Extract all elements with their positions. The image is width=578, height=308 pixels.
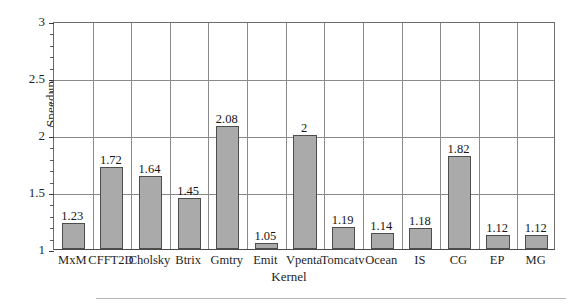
y-axis-minor-tick: [50, 228, 54, 229]
bar-value-label: 2.08: [216, 112, 238, 127]
bar-value-label: 1.12: [525, 221, 547, 236]
x-axis-tick-label: CFFT2D: [88, 253, 133, 268]
x-axis-tick-label: EP: [490, 253, 505, 268]
bar-value-label: 1.23: [61, 209, 83, 224]
bar-value-label: 1.64: [139, 162, 161, 177]
x-axis-tick-label: Cholsky: [129, 253, 171, 268]
bar-value-label: 1.72: [100, 153, 122, 168]
y-axis-major-tick: [49, 251, 54, 252]
bar-value-label: 1.19: [332, 213, 354, 228]
bar: [332, 227, 355, 249]
bar-value-label: 1.12: [486, 221, 508, 236]
plot-area: [53, 22, 555, 250]
bar-chart-figure: Speedup 11.522.53 MxMCFFT2DCholskyBtrixG…: [0, 0, 578, 308]
gridline-vertical: [517, 23, 518, 249]
bar-value-label: 1.82: [448, 142, 470, 157]
gridline-vertical: [93, 23, 94, 249]
y-axis-minor-tick: [50, 240, 54, 241]
gridline-vertical: [170, 23, 171, 249]
bar: [139, 176, 162, 249]
bar: [486, 235, 509, 249]
bar-value-label: 1.05: [254, 229, 276, 244]
y-axis-minor-tick: [50, 148, 54, 149]
y-axis-minor-tick: [50, 205, 54, 206]
bar: [178, 198, 201, 249]
x-axis-tick-label: Emit: [253, 253, 277, 268]
bar: [216, 126, 239, 249]
y-axis-major-tick: [49, 194, 54, 195]
x-axis-title: Kernel: [0, 269, 578, 285]
gridline-vertical: [324, 23, 325, 249]
y-axis-minor-tick: [50, 160, 54, 161]
bar-value-label: 2: [301, 121, 307, 136]
bar: [293, 135, 316, 249]
y-axis-minor-tick: [50, 91, 54, 92]
bar: [62, 223, 85, 249]
x-axis-tick-label: Gmtry: [210, 253, 243, 268]
gridline-vertical: [247, 23, 248, 249]
gridline-vertical: [131, 23, 132, 249]
y-axis-minor-tick: [50, 69, 54, 70]
y-axis-major-tick: [49, 80, 54, 81]
bar: [448, 156, 471, 249]
gridline-vertical: [402, 23, 403, 249]
y-axis-tick-label: 2: [15, 128, 45, 144]
y-axis-minor-tick: [50, 114, 54, 115]
y-axis-minor-tick: [50, 217, 54, 218]
gridline-vertical: [286, 23, 287, 249]
gridline-vertical: [208, 23, 209, 249]
bar-value-label: 1.18: [409, 214, 431, 229]
x-axis-tick-label: MxM: [58, 253, 86, 268]
x-axis-tick-label: IS: [414, 253, 425, 268]
footer-rule: [96, 298, 566, 299]
gridline-vertical: [479, 23, 480, 249]
bar: [525, 235, 548, 249]
y-axis-minor-tick: [50, 103, 54, 104]
y-axis-major-tick: [49, 137, 54, 138]
y-axis-minor-tick: [50, 57, 54, 58]
bar-value-label: 1.45: [177, 184, 199, 199]
y-axis-tick-label: 1: [15, 242, 45, 258]
y-axis-major-tick: [49, 23, 54, 24]
y-axis-minor-tick: [50, 183, 54, 184]
bar: [371, 233, 394, 249]
y-axis-minor-tick: [50, 34, 54, 35]
y-axis-tick-label: 2.5: [15, 71, 45, 87]
y-axis-tick-label: 3: [15, 14, 45, 30]
x-axis-tick-label: Ocean: [365, 253, 397, 268]
x-axis-tick-label: Vpenta: [286, 253, 322, 268]
gridline-vertical: [363, 23, 364, 249]
x-axis-tick-label: CG: [450, 253, 467, 268]
y-axis-tick-label: 1.5: [15, 185, 45, 201]
x-axis-tick-label: MG: [526, 253, 546, 268]
bar: [409, 228, 432, 249]
bar-value-label: 1.14: [370, 219, 392, 234]
y-axis-minor-tick: [50, 126, 54, 127]
y-axis-minor-tick: [50, 171, 54, 172]
gridline-vertical: [440, 23, 441, 249]
x-axis-tick-label: Tomcatv: [321, 253, 365, 268]
y-axis-minor-tick: [50, 46, 54, 47]
bar: [100, 167, 123, 249]
x-axis-tick-label: Btrix: [175, 253, 201, 268]
